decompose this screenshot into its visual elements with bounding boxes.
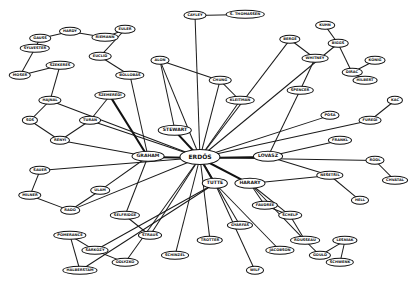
graph-node-n5: S. THOMASSEN <box>226 10 265 19</box>
graph-node-n41: SCHINZEL <box>161 251 189 260</box>
graph-node-n36: STRAUS <box>138 231 162 240</box>
graph-node-n39: ODLYZKO <box>112 258 139 267</box>
graph-node-n33: RADO <box>60 206 80 215</box>
graph-node-n27: FRANKL <box>328 136 352 145</box>
graph-node-graham: GRAHAM <box>132 151 165 162</box>
graph-node-n21: ALON <box>150 56 169 65</box>
graph-node-n6: SYLVESTER <box>20 44 50 53</box>
graph-node-erdos: ERDŐS <box>179 149 220 165</box>
graph-node-n15: HAJNAL <box>38 96 61 105</box>
graph-node-stewart: STEWART <box>158 125 192 136</box>
graph-edge <box>215 183 281 251</box>
graph-edge <box>200 157 375 161</box>
graph-edge <box>80 183 216 271</box>
graph-node-n55: CHVÁTAL <box>382 176 408 185</box>
graph-node-n30: HELL <box>351 196 369 205</box>
graph-node-n49: LESNIAK <box>332 236 357 245</box>
graph-node-n43: GYÁRFÁS <box>227 221 253 230</box>
graph-node-lovasz: LOVÁSZ <box>253 151 283 162</box>
graph-node-n8: BERGE <box>279 35 300 44</box>
graph-node-n11: HILBERT <box>353 76 378 85</box>
graph-node-n7: EUCLID <box>89 52 112 61</box>
graph-node-n28: RÖDL <box>365 156 384 165</box>
graph-node-gauss: GAUSS <box>29 34 51 43</box>
graph-node-n48: GOULD <box>309 251 331 260</box>
graph-node-n1: HARDY <box>59 27 81 36</box>
graph-canvas: ERDŐSGRAHAMTUTTEHARARYLOVÁSZSTEWARTGAUSS… <box>0 0 411 304</box>
graph-edge <box>268 90 301 156</box>
graph-node-n31: SAUER <box>29 166 50 175</box>
graph-node-n50: SCHWENK <box>326 258 354 267</box>
graph-edge <box>109 95 149 157</box>
graph-node-n25: PÓSA <box>320 111 339 120</box>
graph-edge <box>200 80 221 157</box>
graph-node-n53: SZEKERES <box>46 61 75 70</box>
graph-edge <box>195 15 201 157</box>
graph-node-n4: CAYLEY <box>183 11 206 20</box>
graph-node-n17: RÉNYI <box>50 136 70 145</box>
graph-node-n35: SELFRIDGE <box>110 211 140 220</box>
graph-node-n24: SPENCER <box>287 86 314 95</box>
graph-node-n32: MILNER <box>18 191 41 200</box>
graph-node-n42: TROTTER <box>197 236 223 245</box>
graph-node-n38: SÁRKÖZY <box>81 246 108 255</box>
graph-node-n54: KAC <box>387 96 403 105</box>
graph-node-n47: JACOBSON <box>265 246 294 255</box>
graph-node-n52: MOSER <box>9 71 31 80</box>
graph-node-n34: ULAM <box>90 186 110 195</box>
graph-node-n13: WHITNEY <box>302 54 329 63</box>
graph-node-n22: KLEITMAN <box>226 96 255 105</box>
graph-node-n46: ROUSSEAU <box>290 236 320 245</box>
graph-node-n45: SCHELP <box>278 211 302 220</box>
graph-edge <box>40 157 200 171</box>
graph-node-n44: FAUDREE <box>252 201 278 210</box>
graph-node-n51: WILF <box>246 266 264 275</box>
graph-node-n40: HALBERSTAM <box>62 266 97 275</box>
graph-node-n29: NEŠETŘIL <box>316 171 343 180</box>
graph-node-n26: FÜREDI <box>359 116 382 125</box>
graph-node-n18: TURÁN <box>79 116 101 125</box>
graph-node-n14: KUHN <box>315 21 335 30</box>
graph-node-n20: BOLLOBÁS <box>115 71 144 80</box>
graph-node-n9: BIGGS <box>328 39 349 48</box>
graph-node-harary: HARARY <box>234 178 265 189</box>
graph-node-n16: SÓS <box>22 116 38 125</box>
graph-node-n23: CHUNG <box>209 76 232 85</box>
graph-node-tutte: TUTTE <box>202 178 228 189</box>
graph-node-n37: POMERANCE <box>53 231 86 240</box>
graph-node-n2: EULER <box>115 25 136 34</box>
graph-node-n19: SZEMERÉDI <box>94 91 125 100</box>
graph-node-n10: KÖNIG <box>365 56 386 65</box>
graph-node-n3: RIEMANN <box>92 33 119 42</box>
graph-node-n12: DIRAC <box>342 68 363 77</box>
